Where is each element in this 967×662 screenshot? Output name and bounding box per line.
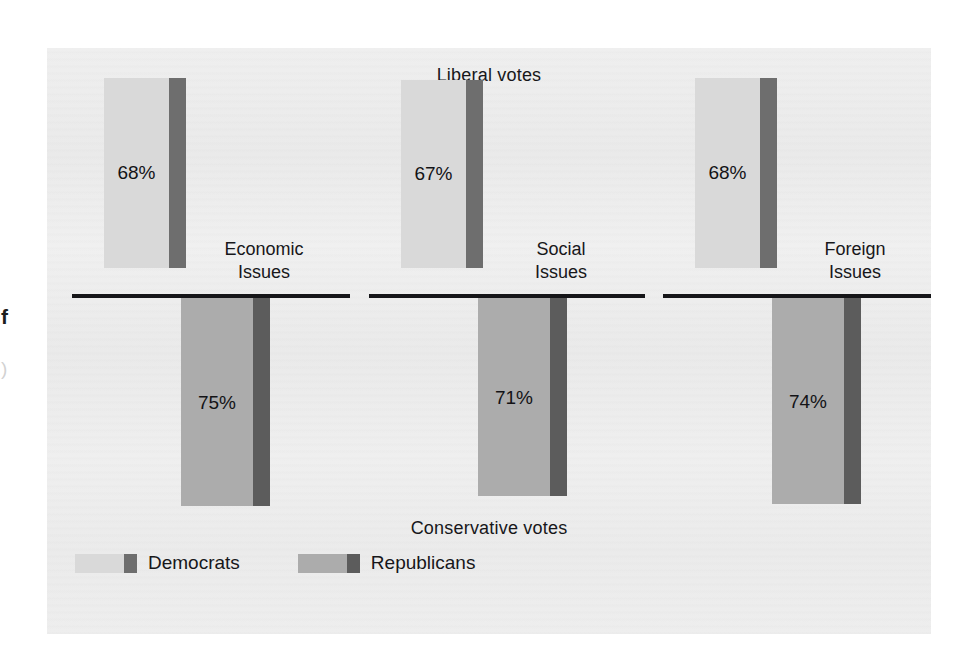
page-bleed-glyph: f bbox=[1, 305, 7, 329]
bar-shadow-edge bbox=[169, 78, 186, 268]
bar-republicans-economic-issues[interactable]: 75% bbox=[181, 298, 270, 506]
legend-swatch-edge bbox=[124, 554, 137, 573]
conservative-votes-title: Conservative votes bbox=[47, 518, 931, 539]
bar-group-foreign-issues: 68% 74% Foreign Issues bbox=[663, 48, 931, 518]
bar-shadow-edge bbox=[550, 298, 567, 496]
bar-body: 74% bbox=[772, 298, 844, 504]
legend-label-democrats: Democrats bbox=[148, 552, 240, 574]
page-bleed-mark: ) bbox=[1, 358, 7, 380]
chart-legend: Democrats Republicans bbox=[75, 552, 533, 574]
bar-shadow-edge bbox=[760, 78, 777, 268]
bar-democrats-foreign-issues[interactable]: 68% bbox=[695, 78, 777, 268]
chart-panel: Liberal votes Conservative votes 68% 75%… bbox=[47, 48, 931, 634]
bar-body: 71% bbox=[478, 298, 550, 496]
bar-shadow-edge bbox=[844, 298, 861, 504]
bar-republicans-foreign-issues[interactable]: 74% bbox=[772, 298, 861, 504]
bar-value-label: 68% bbox=[695, 162, 760, 184]
bar-body: 75% bbox=[181, 298, 253, 506]
group-label-social-issues: Social Issues bbox=[491, 238, 631, 284]
bar-body: 68% bbox=[104, 78, 169, 268]
legend-swatch-edge bbox=[347, 554, 360, 573]
bar-body: 68% bbox=[695, 78, 760, 268]
legend-swatch-democrats-icon bbox=[75, 554, 137, 573]
bar-democrats-social-issues[interactable]: 67% bbox=[401, 80, 483, 268]
bar-group-social-issues: 67% 71% Social Issues bbox=[369, 48, 645, 518]
bar-value-label: 71% bbox=[478, 387, 550, 409]
bar-shadow-edge bbox=[253, 298, 270, 506]
bar-value-label: 74% bbox=[772, 391, 844, 413]
legend-item-republicans[interactable]: Republicans bbox=[298, 552, 476, 574]
bar-value-label: 75% bbox=[181, 392, 253, 414]
bar-shadow-edge bbox=[466, 80, 483, 268]
legend-swatch-republicans-icon bbox=[298, 554, 360, 573]
bar-republicans-social-issues[interactable]: 71% bbox=[478, 298, 567, 496]
bar-democrats-economic-issues[interactable]: 68% bbox=[104, 78, 186, 268]
group-label-economic-issues: Economic Issues bbox=[194, 238, 334, 284]
bar-value-label: 68% bbox=[104, 162, 169, 184]
group-label-foreign-issues: Foreign Issues bbox=[785, 238, 925, 284]
legend-swatch-body bbox=[298, 554, 347, 573]
legend-item-democrats[interactable]: Democrats bbox=[75, 552, 240, 574]
legend-swatch-body bbox=[75, 554, 124, 573]
bar-body: 67% bbox=[401, 80, 466, 268]
legend-label-republicans: Republicans bbox=[371, 552, 476, 574]
bar-value-label: 67% bbox=[401, 163, 466, 185]
bar-group-economic-issues: 68% 75% Economic Issues bbox=[72, 48, 350, 518]
